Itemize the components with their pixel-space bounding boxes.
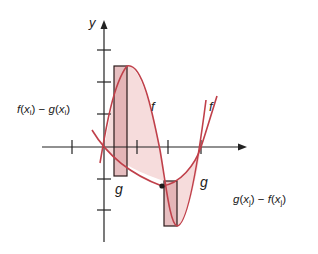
- g-label-lower: g: [115, 181, 123, 197]
- x-axis-arrow-icon: [238, 144, 247, 151]
- left-rect-annotation: f(xi) − g(xi): [17, 103, 70, 117]
- area-between-curves-diagram: y f f g g f(xi) − g(xi) g(xj) − f(xj): [0, 0, 318, 254]
- g-label-right: g: [200, 174, 208, 190]
- f-label-upper: f: [151, 99, 156, 114]
- y-axis-arrow-icon: [101, 20, 108, 29]
- point-marker: [159, 183, 164, 188]
- y-axis-label: y: [88, 15, 97, 30]
- right-rect-annotation: g(xj) − f(xj): [233, 193, 286, 207]
